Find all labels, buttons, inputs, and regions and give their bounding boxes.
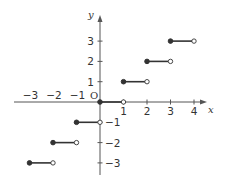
y-tick-label: 3 (87, 35, 94, 47)
open-endpoint-circle (168, 59, 172, 63)
closed-endpoint-dot (74, 120, 79, 125)
closed-endpoint-dot (98, 100, 103, 105)
y-tick-label: −3 (105, 157, 120, 169)
y-tick-label: −2 (105, 137, 120, 149)
open-endpoint-circle (121, 100, 125, 104)
y-axis-arrow-icon (98, 15, 103, 22)
closed-endpoint-dot (27, 161, 32, 166)
open-endpoint-circle (145, 80, 149, 84)
x-tick-label: 2 (144, 105, 151, 117)
x-axis-label: x (208, 104, 214, 115)
y-axis-label: y (87, 9, 94, 20)
open-endpoint-circle (74, 140, 78, 144)
closed-endpoint-dot (121, 79, 126, 84)
open-endpoint-circle (51, 161, 55, 165)
x-tick-label: −1 (70, 89, 85, 101)
y-tick-label: 1 (87, 76, 94, 88)
x-tick-label: 4 (191, 105, 198, 117)
open-endpoint-circle (192, 39, 196, 43)
origin-label: O (90, 90, 98, 101)
x-tick-label: 3 (167, 105, 174, 117)
closed-endpoint-dot (51, 140, 56, 145)
x-tick-label: −3 (23, 89, 38, 101)
step-function-chart: xyO−3−2−11234−3−2−1123 (0, 0, 225, 186)
y-tick-label: 2 (87, 55, 94, 67)
x-axis-arrow-icon (200, 100, 207, 105)
closed-endpoint-dot (168, 39, 173, 44)
closed-endpoint-dot (145, 59, 150, 64)
y-tick-label: −1 (105, 116, 120, 128)
x-tick-label: 1 (120, 105, 127, 117)
axes (14, 15, 207, 175)
x-tick-label: −2 (46, 89, 61, 101)
open-endpoint-circle (98, 120, 102, 124)
